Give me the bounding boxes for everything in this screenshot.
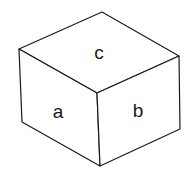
cube-svg: c a b (0, 0, 188, 174)
cube-diagram: c a b (0, 0, 188, 174)
left-face-label: a (53, 101, 64, 122)
right-face-label: b (133, 100, 144, 121)
top-face-label: c (94, 42, 104, 63)
